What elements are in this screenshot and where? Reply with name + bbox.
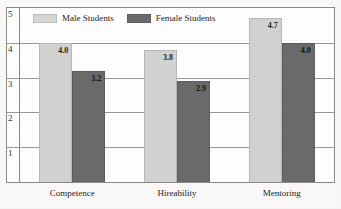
chart-legend: Male Students Female Students <box>33 13 216 23</box>
bar-value-label: 3.8 <box>163 53 173 62</box>
bar-mentoring-female: 4.0 <box>282 43 315 182</box>
legend-item-male: Male Students <box>33 13 114 23</box>
legend-swatch-female <box>127 14 151 23</box>
legend-label-female: Female Students <box>156 13 216 23</box>
x-label-hireability: Hireability <box>125 188 230 199</box>
y-tick-label-5: 5 <box>8 9 20 19</box>
y-tick-label-2: 2 <box>8 113 20 123</box>
bar-hireability-male: 3.8 <box>144 50 177 182</box>
bar-value-label: 3.2 <box>91 74 101 83</box>
y-tick-label-1: 1 <box>8 148 20 158</box>
bar-value-label: 4.0 <box>301 46 311 55</box>
plot-area: 4.03.23.82.94.74.0 <box>20 8 334 182</box>
bar-group-mentoring: 4.74.0 <box>249 8 315 182</box>
bar-competence-female: 3.2 <box>72 71 105 182</box>
x-axis-category-labels: CompetenceHireabilityMentoring <box>20 188 334 202</box>
bar-value-label: 4.7 <box>268 21 278 30</box>
bar-value-label: 4.0 <box>58 46 68 55</box>
legend-item-female: Female Students <box>127 13 216 23</box>
bar-chart: 12345 Male Students Female Students 4.03… <box>0 0 341 209</box>
legend-label-male: Male Students <box>62 13 114 23</box>
bar-mentoring-male: 4.7 <box>249 18 282 182</box>
bar-hireability-female: 2.9 <box>177 81 210 182</box>
legend-swatch-male <box>33 14 57 23</box>
bar-group-competence: 4.03.2 <box>39 8 105 182</box>
x-label-competence: Competence <box>20 188 125 199</box>
bar-competence-male: 4.0 <box>39 43 72 182</box>
x-label-mentoring: Mentoring <box>229 188 334 199</box>
bar-value-label: 2.9 <box>196 84 206 93</box>
y-tick-label-4: 4 <box>8 44 20 54</box>
bar-group-hireability: 3.82.9 <box>144 8 210 182</box>
y-tick-label-3: 3 <box>8 79 20 89</box>
